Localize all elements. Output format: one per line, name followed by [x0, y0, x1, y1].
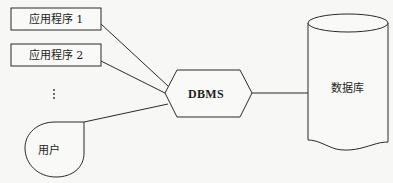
user-label: 用户 [38, 145, 60, 156]
ellipsis-icon [53, 89, 55, 99]
diagram-canvas: 应用程序 1 应用程序 2 用户 DBMS 数据库 [0, 0, 393, 183]
database-label: 数据库 [331, 83, 364, 94]
database-cylinder-top [308, 14, 388, 32]
app1-label: 应用程序 1 [29, 14, 84, 25]
edge-user-dbms [84, 104, 168, 122]
dbms-label: DBMS [188, 88, 224, 100]
app2-label: 应用程序 2 [29, 50, 84, 61]
edge-app1-dbms [101, 24, 168, 86]
edge-app2-dbms [101, 61, 165, 93]
